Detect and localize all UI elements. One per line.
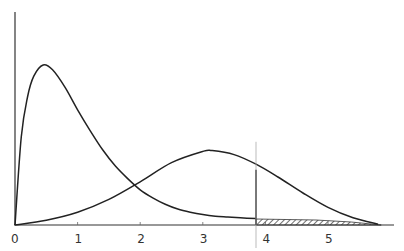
distribution-chart: 012345 — [0, 0, 404, 251]
x-tick-label: 1 — [75, 232, 83, 246]
x-tick-label: 5 — [325, 232, 333, 246]
x-axis-tick-labels: 012345 — [11, 232, 333, 246]
x-tick-label: 0 — [11, 232, 19, 246]
x-tick-label: 2 — [137, 232, 145, 246]
x-tick-label: 4 — [262, 232, 270, 246]
curve-distribution-a — [15, 65, 256, 225]
x-tick-label: 3 — [200, 232, 208, 246]
